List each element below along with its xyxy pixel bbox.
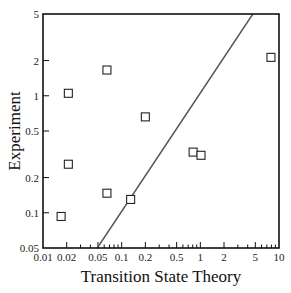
data-points: [57, 53, 275, 220]
parity-line-path: [97, 14, 253, 248]
x-tick-label: 0.5: [170, 251, 184, 263]
x-tick-label: 0.2: [138, 251, 152, 263]
x-tick-label: 0.1: [115, 251, 129, 263]
y-tick-label: 1: [34, 90, 40, 102]
square-marker-icon: [103, 66, 111, 74]
square-marker-icon: [141, 113, 149, 121]
square-marker-icon: [64, 89, 72, 97]
y-tick-label: 2: [34, 55, 40, 67]
x-tick-label: 5: [253, 251, 259, 263]
scatter-chart: 0.010.020.050.10.20.512510 0.050.10.20.5…: [0, 0, 291, 293]
y-tick-label: 0.05: [20, 242, 40, 254]
x-tick-label: 2: [221, 251, 227, 263]
square-marker-icon: [189, 148, 197, 156]
y-tick-label: 5: [34, 8, 40, 20]
square-marker-icon: [103, 189, 111, 197]
square-marker-icon: [267, 53, 275, 61]
x-tick-label: 1: [198, 251, 204, 263]
plot-frame: [43, 14, 279, 248]
y-tick-label: 0.2: [25, 172, 39, 184]
square-marker-icon: [64, 160, 72, 168]
y-axis-title: Experiment: [5, 91, 24, 171]
x-axis-ticks: 0.010.020.050.10.20.512510: [33, 242, 285, 263]
y-tick-label: 0.1: [25, 207, 39, 219]
square-marker-icon: [197, 151, 205, 159]
square-marker-icon: [127, 195, 135, 203]
x-tick-label: 0.02: [57, 251, 76, 263]
x-tick-label: 0.05: [88, 251, 108, 263]
square-marker-icon: [57, 212, 65, 220]
y-axis-ticks: 0.050.10.20.5125: [20, 8, 49, 254]
x-axis-title: Transition State Theory: [81, 267, 242, 286]
parity-line: [97, 14, 253, 248]
x-tick-label: 10: [274, 251, 286, 263]
y-tick-label: 0.5: [25, 125, 39, 137]
